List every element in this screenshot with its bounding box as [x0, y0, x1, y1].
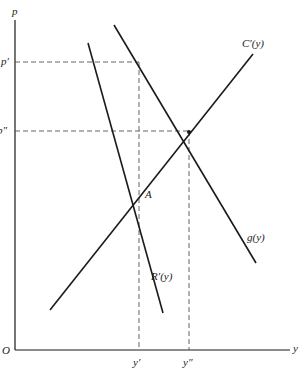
- y-axis-label: p: [12, 6, 18, 17]
- y-prime-label: y′: [133, 357, 140, 368]
- marginal-revenue-label: R′(y): [151, 271, 172, 282]
- origin-label: O: [2, 345, 10, 356]
- x-axis-label: y: [293, 343, 298, 354]
- equilibrium-dot: [187, 130, 191, 134]
- demand-g-line: [114, 25, 256, 263]
- y-double-prime-label: y″: [183, 357, 192, 368]
- point-a-label: A: [145, 189, 152, 200]
- p-prime-label: p′: [1, 56, 9, 67]
- demand-g-label: g(y): [247, 232, 265, 243]
- marginal-cost-label: C′(y): [242, 38, 264, 49]
- p-double-prime-label: p″: [0, 125, 7, 136]
